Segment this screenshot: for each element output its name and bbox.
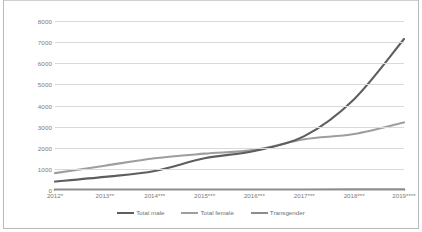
gridline-5000	[55, 84, 404, 85]
gridline-6000	[55, 63, 404, 64]
x-axis-tick-4: 2016***	[244, 192, 265, 200]
chart-figure: 010002000300040005000600070008000 2012*2…	[0, 0, 422, 232]
gridline-4000	[55, 106, 404, 107]
y-axis-labels: 010002000300040005000600070008000	[8, 21, 52, 190]
x-axis-labels: 2012*2013**2014***2015***2016***2017***2…	[55, 192, 404, 206]
y-axis-tick-4000: 4000	[12, 102, 52, 109]
legend-label: Transgender	[270, 209, 305, 217]
x-axis-tick-5: 2017***	[294, 192, 315, 200]
x-axis-tick-1: 2013**	[96, 192, 115, 200]
gridline-8000	[55, 21, 404, 22]
chart-legend: Total maleTotal femaleTransgender	[0, 209, 422, 217]
gridline-0	[55, 190, 404, 191]
legend-label: Total female	[200, 209, 233, 217]
y-axis-tick-7000: 7000	[12, 39, 52, 46]
gridline-1000	[55, 169, 404, 170]
legend-item-total-female[interactable]: Total female	[181, 209, 233, 217]
legend-swatch-icon	[117, 212, 134, 215]
legend-swatch-icon	[181, 212, 198, 215]
gridline-3000	[55, 127, 404, 128]
y-axis-tick-3000: 3000	[12, 123, 52, 130]
x-axis-tick-7: 2019****	[392, 192, 415, 200]
figure-frame-top	[3, 0, 419, 1]
gridline-2000	[55, 148, 404, 149]
line-series-total-male	[55, 39, 404, 182]
legend-item-transgender[interactable]: Transgender	[251, 209, 305, 217]
y-axis-tick-1000: 1000	[12, 165, 52, 172]
y-axis-tick-5000: 5000	[12, 81, 52, 88]
plot-area	[55, 21, 404, 190]
legend-label: Total male	[136, 209, 164, 217]
y-axis-tick-6000: 6000	[12, 60, 52, 67]
legend-item-total-male[interactable]: Total male	[117, 209, 164, 217]
x-axis-tick-0: 2012*	[47, 192, 63, 200]
x-axis-tick-3: 2015***	[194, 192, 215, 200]
y-axis-tick-2000: 2000	[12, 144, 52, 151]
x-axis-tick-2: 2014***	[144, 192, 165, 200]
x-axis-tick-6: 2018***	[344, 192, 365, 200]
y-axis-tick-8000: 8000	[12, 18, 52, 25]
gridline-7000	[55, 42, 404, 43]
legend-swatch-icon	[251, 212, 268, 215]
